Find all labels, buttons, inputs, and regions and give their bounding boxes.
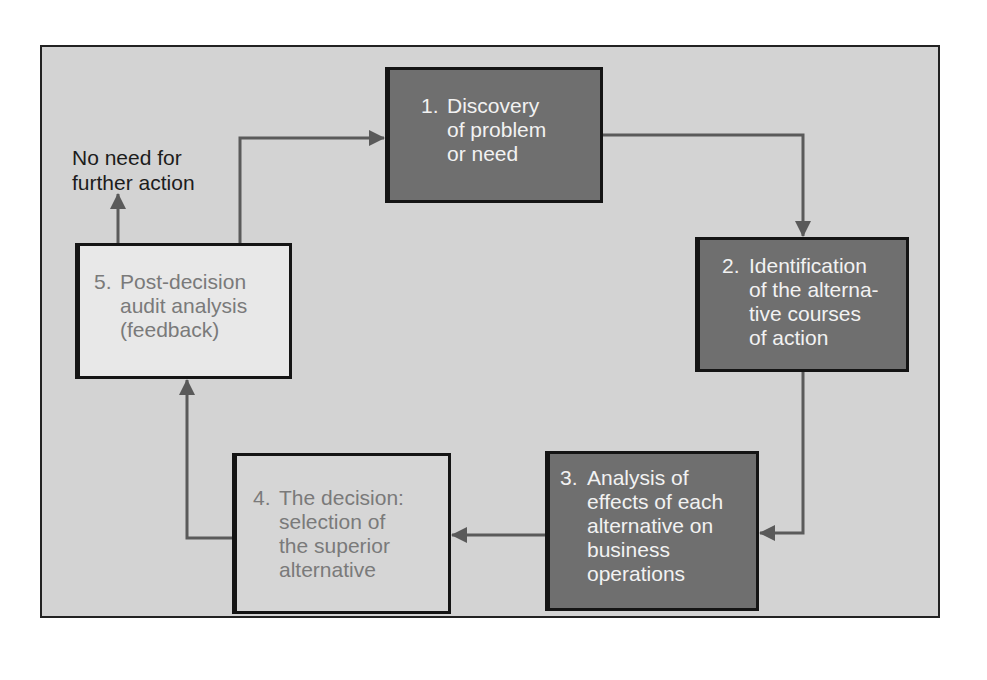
step-number: 2. xyxy=(722,254,740,278)
step-line: audit analysis xyxy=(120,294,247,318)
step-line: of the alterna- xyxy=(749,278,879,302)
step-4-box: 4. The decision: selection of the superi… xyxy=(232,453,451,614)
exit-label-line: No need for xyxy=(72,146,182,169)
step-line: operations xyxy=(587,562,685,586)
arrow-5-to-1 xyxy=(240,138,384,243)
step-1-box: 1. Discovery of problem or need xyxy=(385,67,603,203)
step-line: (feedback) xyxy=(120,318,219,342)
step-line: or need xyxy=(447,142,518,166)
step-line: effects of each xyxy=(587,490,723,514)
step-line: of action xyxy=(749,326,828,350)
step-line: Identification xyxy=(749,254,867,278)
step-line: the superior xyxy=(279,534,390,558)
step-line: selection of xyxy=(279,510,385,534)
exit-label-line: further action xyxy=(72,171,195,194)
step-number: 3. xyxy=(560,466,578,490)
arrow-2-to-3 xyxy=(760,371,803,533)
step-line: alternative on xyxy=(587,514,713,538)
step-line: tive courses xyxy=(749,302,861,326)
step-number: 4. xyxy=(253,486,271,510)
step-line: The decision: xyxy=(279,486,404,510)
step-line: Analysis of xyxy=(587,466,689,490)
step-line: Post-decision xyxy=(120,270,246,294)
step-line: alternative xyxy=(279,558,376,582)
step-line: Discovery xyxy=(447,94,539,118)
arrow-4-to-5 xyxy=(187,380,232,538)
step-3-box: 3. Analysis of effects of each alternati… xyxy=(545,451,759,611)
step-number: 5. xyxy=(94,270,112,294)
step-2-box: 2. Identification of the alterna- tive c… xyxy=(695,237,909,372)
step-number: 1. xyxy=(421,94,439,118)
step-5-box: 5. Post-decision audit analysis (feedbac… xyxy=(75,243,292,379)
exit-label: No need forfurther action xyxy=(72,145,195,195)
step-line: business xyxy=(587,538,670,562)
arrow-1-to-2 xyxy=(603,135,803,236)
step-line: of problem xyxy=(447,118,546,142)
